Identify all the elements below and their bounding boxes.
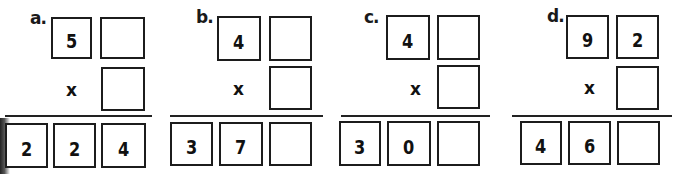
digit: 2 bbox=[632, 29, 643, 51]
top-digit-box-2[interactable]: 2 bbox=[616, 15, 659, 59]
problem-label: d. bbox=[547, 6, 564, 26]
result-box-1[interactable]: 4 bbox=[520, 121, 562, 165]
sum-line bbox=[512, 115, 672, 117]
digit: 4 bbox=[535, 135, 546, 157]
digit: 6 bbox=[584, 135, 595, 157]
problem-d: d. 9 2 x 4 6 bbox=[0, 0, 685, 180]
multiplier-box[interactable] bbox=[616, 66, 659, 110]
result-box-2[interactable]: 6 bbox=[568, 121, 611, 165]
top-digit-box-1[interactable]: 9 bbox=[566, 15, 609, 59]
multiply-sign: x bbox=[584, 78, 595, 98]
digit: 9 bbox=[582, 29, 593, 51]
result-box-3[interactable] bbox=[617, 121, 660, 165]
